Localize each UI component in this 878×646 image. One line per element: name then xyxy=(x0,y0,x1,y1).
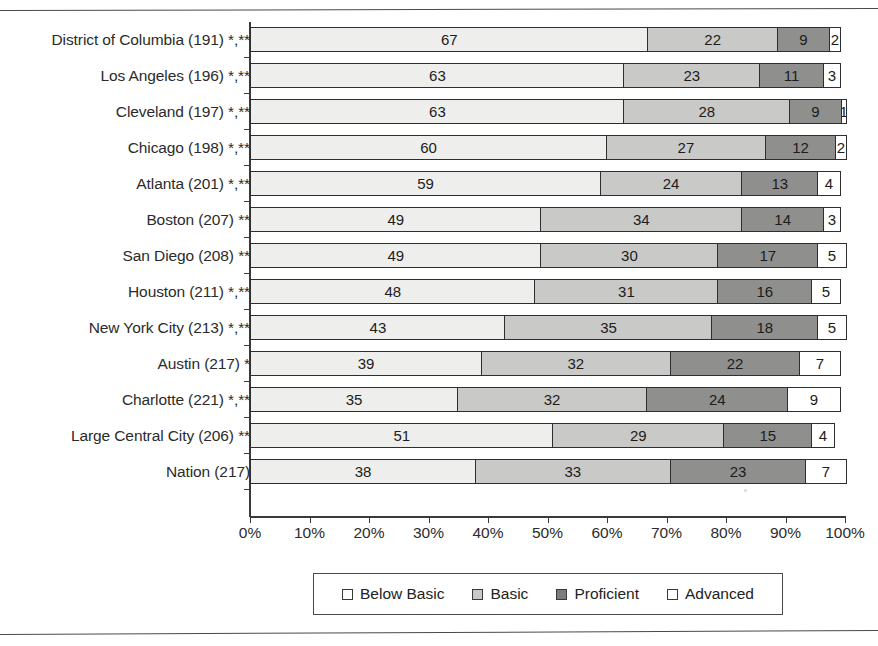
legend-item[interactable]: Advanced xyxy=(667,585,754,603)
stacked-bar: 3833237 xyxy=(250,459,845,484)
bar-segment-prof: 23 xyxy=(670,459,807,484)
chart-row: Chicago (198) *,**6027122 xyxy=(0,130,878,166)
x-axis-tick xyxy=(786,516,787,523)
segment-value-label: 29 xyxy=(630,427,647,444)
bar-segment-below: 38 xyxy=(250,459,476,484)
bar-segment-basic: 28 xyxy=(623,99,790,124)
bar-segment-below: 48 xyxy=(250,279,536,304)
bar-segment-adv: 4 xyxy=(817,171,841,196)
segment-value-label: 67 xyxy=(441,31,458,48)
row-label: Cleveland (197) *,** xyxy=(116,94,250,130)
bar-segment-prof: 14 xyxy=(741,207,824,232)
segment-value-label: 5 xyxy=(822,283,830,300)
segment-value-label: 2 xyxy=(831,31,839,48)
legend-swatch-icon xyxy=(556,589,567,600)
x-axis-tick xyxy=(369,516,370,523)
y-axis-tick xyxy=(244,489,250,490)
segment-value-label: 35 xyxy=(600,319,617,336)
row-label: San Diego (208) ** xyxy=(123,238,250,274)
stacked-bar: 6027122 xyxy=(250,135,845,160)
legend-swatch-icon xyxy=(342,589,353,600)
bar-segment-basic: 30 xyxy=(540,243,719,268)
segment-value-label: 28 xyxy=(698,103,715,120)
bar-segment-prof: 18 xyxy=(711,315,818,340)
legend-item[interactable]: Basic xyxy=(472,585,528,603)
chart-row: Nation (217)3833237 xyxy=(0,454,878,490)
bar-segment-basic: 22 xyxy=(647,27,778,52)
x-axis-tick xyxy=(548,516,549,523)
bar-segment-below: 51 xyxy=(250,423,553,448)
x-axis-tick xyxy=(667,516,668,523)
segment-value-label: 3 xyxy=(828,67,836,84)
segment-value-label: 63 xyxy=(429,103,446,120)
chart-rows: District of Columbia (191) *,**672292Los… xyxy=(0,22,878,490)
bar-segment-adv: 2 xyxy=(829,27,841,52)
segment-value-label: 7 xyxy=(816,355,824,372)
row-label: Charlotte (221) *,** xyxy=(122,382,250,418)
bar-segment-prof: 22 xyxy=(670,351,801,376)
bar-segment-prof: 24 xyxy=(646,387,789,412)
segment-value-label: 31 xyxy=(618,283,635,300)
row-label: Large Central City (206) ** xyxy=(71,418,250,454)
legend-swatch-icon xyxy=(472,589,483,600)
bar-segment-prof: 13 xyxy=(741,171,818,196)
segment-value-label: 22 xyxy=(704,31,721,48)
stacked-bar: 4934143 xyxy=(250,207,845,232)
bar-segment-adv: 2 xyxy=(835,135,847,160)
legend-label: Proficient xyxy=(574,585,639,603)
row-label: Houston (211) *,** xyxy=(128,274,250,310)
legend-label: Basic xyxy=(490,585,528,603)
chart-row: Austin (217) *3932227 xyxy=(0,346,878,382)
stacked-bar: 3932227 xyxy=(250,351,845,376)
chart-row: Boston (207) **4934143 xyxy=(0,202,878,238)
segment-value-label: 39 xyxy=(358,355,375,372)
x-axis-tick-label: 70% xyxy=(651,524,682,542)
segment-value-label: 34 xyxy=(633,211,650,228)
segment-value-label: 38 xyxy=(355,463,372,480)
bar-segment-adv: 5 xyxy=(817,243,847,268)
bar-segment-prof: 16 xyxy=(717,279,812,304)
segment-value-label: 35 xyxy=(346,391,363,408)
bar-segment-adv: 3 xyxy=(823,63,841,88)
bar-segment-below: 59 xyxy=(250,171,601,196)
legend-item[interactable]: Below Basic xyxy=(342,585,444,603)
x-axis-tick-label: 30% xyxy=(413,524,444,542)
segment-value-label: 32 xyxy=(568,355,585,372)
chart-row: Los Angeles (196) *,**6323113 xyxy=(0,58,878,94)
chart-row: District of Columbia (191) *,**672292 xyxy=(0,22,878,58)
segment-value-label: 30 xyxy=(621,247,638,264)
stacked-bar: 3532249 xyxy=(250,387,845,412)
row-label: Los Angeles (196) *,** xyxy=(101,58,250,94)
bar-segment-basic: 29 xyxy=(552,423,725,448)
bar-segment-adv: 4 xyxy=(811,423,835,448)
segment-value-label: 32 xyxy=(544,391,561,408)
legend-item[interactable]: Proficient xyxy=(556,585,639,603)
bar-segment-below: 39 xyxy=(250,351,482,376)
segment-value-label: 43 xyxy=(370,319,387,336)
segment-value-label: 49 xyxy=(387,211,404,228)
stacked-bar: 6323113 xyxy=(250,63,845,88)
bar-segment-basic: 23 xyxy=(623,63,760,88)
bar-segment-basic: 32 xyxy=(481,351,671,376)
bar-segment-adv: 3 xyxy=(823,207,841,232)
segment-value-label: 1 xyxy=(841,103,847,120)
x-axis-tick-label: 0% xyxy=(239,524,261,542)
bar-segment-prof: 17 xyxy=(717,243,818,268)
segment-value-label: 24 xyxy=(663,175,680,192)
bar-segment-adv: 1 xyxy=(841,99,847,124)
segment-value-label: 4 xyxy=(825,175,833,192)
bar-segment-below: 60 xyxy=(250,135,607,160)
bar-segment-below: 35 xyxy=(250,387,458,412)
bar-segment-below: 49 xyxy=(250,243,542,268)
x-axis-tick-label: 90% xyxy=(770,524,801,542)
legend-swatch-icon xyxy=(667,589,678,600)
segment-value-label: 15 xyxy=(759,427,776,444)
segment-value-label: 2 xyxy=(837,139,845,156)
segment-value-label: 5 xyxy=(828,319,836,336)
row-label: Nation (217) xyxy=(166,454,250,490)
segment-value-label: 12 xyxy=(792,139,809,156)
segment-value-label: 13 xyxy=(771,175,788,192)
x-axis-tick xyxy=(310,516,311,523)
x-axis-tick xyxy=(845,516,846,523)
bar-segment-basic: 31 xyxy=(534,279,718,304)
